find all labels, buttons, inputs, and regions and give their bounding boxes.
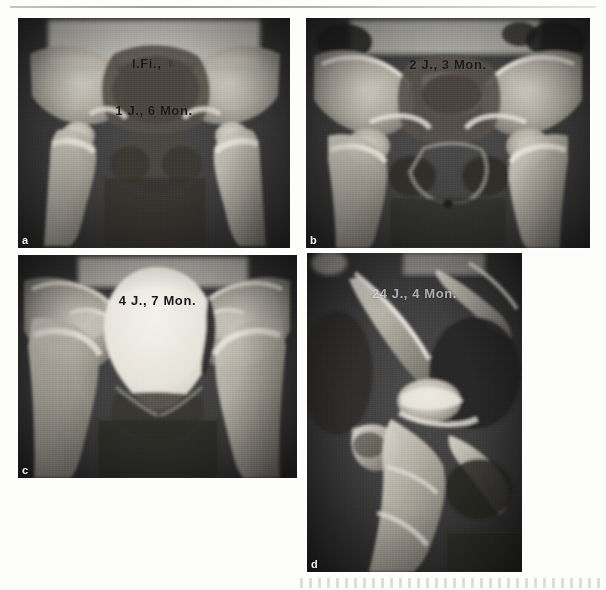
radiograph-panel-a[interactable]: I.Fi., ♀ 1 J., 6 Mon. a xyxy=(18,18,290,248)
panel-d-caption: 24 J., 4 Mon. xyxy=(307,254,522,333)
radiograph-image-d: 24 J., 4 Mon. d xyxy=(307,253,522,572)
panel-b-age-label: 2 J., 3 Mon. xyxy=(306,57,590,73)
radiograph-panel-d[interactable]: 24 J., 4 Mon. d xyxy=(307,253,522,572)
panel-d-letter: d xyxy=(311,558,318,570)
panel-d-age-label: 24 J., 4 Mon. xyxy=(307,286,522,302)
radiograph-panel-c[interactable]: 4 J., 7 Mon. c xyxy=(18,255,297,478)
top-rule-divider xyxy=(10,6,596,8)
panel-b-letter: b xyxy=(310,234,317,246)
radiograph-image-b: 2 J., 3 Mon. b xyxy=(306,18,590,248)
radiograph-image-c: 4 J., 7 Mon. c xyxy=(18,255,297,478)
bottom-scan-artifact xyxy=(300,578,600,588)
panel-c-age-label: 4 J., 7 Mon. xyxy=(18,293,297,309)
radiograph-panel-b[interactable]: 2 J., 3 Mon. b xyxy=(306,18,590,248)
panel-b-caption: 2 J., 3 Mon. xyxy=(306,25,590,104)
panel-a-age-label: 1 J., 6 Mon. xyxy=(18,103,290,119)
panel-c-letter: c xyxy=(22,464,28,476)
panel-a-letter: a xyxy=(22,234,28,246)
figure-page: I.Fi., ♀ 1 J., 6 Mon. a xyxy=(0,0,606,590)
panel-a-patient-label: I.Fi., ♀ xyxy=(18,56,290,72)
radiograph-image-a: I.Fi., ♀ 1 J., 6 Mon. a xyxy=(18,18,290,248)
panel-a-caption: I.Fi., ♀ 1 J., 6 Mon. xyxy=(18,24,290,151)
panel-c-caption: 4 J., 7 Mon. xyxy=(18,261,297,340)
